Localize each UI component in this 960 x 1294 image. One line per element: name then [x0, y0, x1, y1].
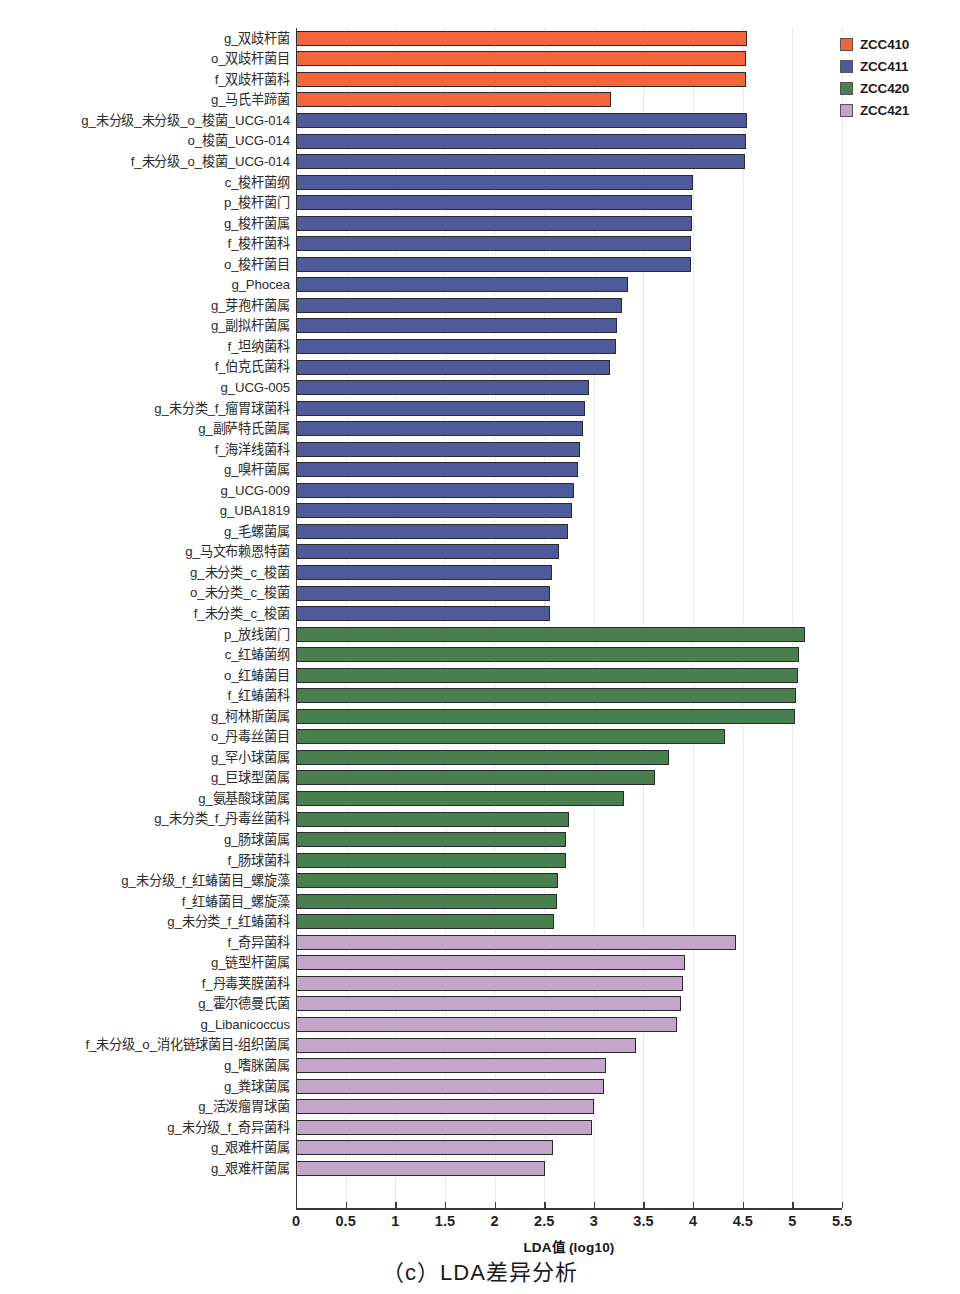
bar-label: o_梭菌_UCG-014: [0, 134, 296, 147]
bar-label: f_坦纳菌科: [0, 340, 296, 353]
bar-cell: [296, 1055, 860, 1076]
bar-label: g_芽孢杆菌属: [0, 299, 296, 312]
legend-item[interactable]: ZCC421: [840, 100, 944, 120]
bar-row: g_柯林斯菌属: [0, 706, 860, 727]
bar-label: o_双歧杆菌目: [0, 52, 296, 65]
bar-label: p_放线菌门: [0, 628, 296, 641]
x-tick: [346, 1202, 347, 1208]
bar: [296, 586, 550, 601]
x-tick: [693, 1202, 694, 1208]
bar-row: f_海洋线菌科: [0, 439, 860, 460]
bar-cell: [296, 49, 860, 70]
plot-area: g_双歧杆菌o_双歧杆菌目f_双歧杆菌科g_马氏羊蹄菌g_未分级_未分级_o_梭…: [0, 28, 860, 1208]
bar-cell: [296, 480, 860, 501]
legend-label: ZCC411: [860, 59, 908, 74]
bar-cell: [296, 316, 860, 337]
bar-label: g_毛螺菌属: [0, 525, 296, 538]
bar-cell: [296, 1117, 860, 1138]
bar-row: o_丹毒丝菌目: [0, 727, 860, 748]
legend-label: ZCC421: [860, 103, 909, 118]
legend-item[interactable]: ZCC420: [840, 78, 944, 98]
bar: [296, 770, 655, 785]
bar: [296, 1038, 636, 1053]
bar-label: f_未分类_c_梭菌: [0, 607, 296, 620]
x-tick-label: 1: [391, 1213, 399, 1229]
bar: [296, 976, 683, 991]
bar: [296, 318, 617, 333]
bar-label: f_红蝽菌科: [0, 689, 296, 702]
bar: [296, 401, 585, 416]
legend-swatch-icon: [840, 60, 853, 73]
bar-cell: [296, 295, 860, 316]
bar-row: f_坦纳菌科: [0, 336, 860, 357]
bar-label: g_梭杆菌属: [0, 217, 296, 230]
bar-label: g_艰难杆菌属: [0, 1141, 296, 1154]
bar-row: p_梭杆菌门: [0, 192, 860, 213]
figure-caption: （c）LDA差异分析: [0, 1254, 960, 1286]
x-tick-label: 5.5: [832, 1213, 852, 1229]
x-tick: [395, 1202, 396, 1208]
bar-row: g_巨球型菌属: [0, 768, 860, 789]
bar-cell: [296, 459, 860, 480]
bar-label: g_未分级_未分级_o_梭菌_UCG-014: [0, 114, 296, 127]
bar-row: g_梭杆菌属: [0, 213, 860, 234]
bar-label: f_双歧杆菌科: [0, 73, 296, 86]
x-axis: 00.511.522.533.544.555.5: [296, 1208, 842, 1210]
legend-item[interactable]: ZCC410: [840, 34, 944, 54]
bar: [296, 688, 796, 703]
bar-cell: [296, 706, 860, 727]
bar-label: g_Phocea: [0, 278, 296, 291]
bar-cell: [296, 398, 860, 419]
bar-row: p_放线菌门: [0, 624, 860, 645]
x-tick-label: 2: [490, 1213, 498, 1229]
bar-row: g_未分级_f_奇异菌科: [0, 1117, 860, 1138]
bar-cell: [296, 891, 860, 912]
bar-label: o_梭杆菌目: [0, 258, 296, 271]
bar-label: g_UBA1819: [0, 504, 296, 517]
bar-cell: [296, 686, 860, 707]
bar-cell: [296, 1076, 860, 1097]
bar: [296, 544, 559, 559]
bar-cell: [296, 110, 860, 131]
bar: [296, 627, 805, 642]
bar-row: f_未分级_o_消化链球菌目-组织菌属: [0, 1035, 860, 1056]
bar-row: f_伯克氏菌科: [0, 357, 860, 378]
bar-cell: [296, 562, 860, 583]
bar-row: c_梭杆菌纲: [0, 172, 860, 193]
bar-cell: [296, 542, 860, 563]
bar-label: g_艰难杆菌属: [0, 1162, 296, 1175]
x-tick-label: 0: [292, 1213, 300, 1229]
bar: [296, 1079, 604, 1094]
bar-label: g_巨球型菌属: [0, 771, 296, 784]
bar-row: g_毛螺菌属: [0, 521, 860, 542]
bar: [296, 750, 669, 765]
bar-cell: [296, 727, 860, 748]
bar-cell: [296, 213, 860, 234]
bar-cell: [296, 172, 860, 193]
bar-label: c_红蝽菌纲: [0, 648, 296, 661]
bar-row: o_梭菌_UCG-014: [0, 131, 860, 152]
legend: ZCC410ZCC411ZCC420ZCC421: [840, 34, 944, 122]
bar-cell: [296, 1035, 860, 1056]
bar: [296, 1140, 553, 1155]
bar-cell: [296, 912, 860, 933]
legend-item[interactable]: ZCC411: [840, 56, 944, 76]
bar-row: g_副拟杆菌属: [0, 316, 860, 337]
bar-row: g_芽孢杆菌属: [0, 295, 860, 316]
bar: [296, 339, 616, 354]
bar-cell: [296, 829, 860, 850]
bar-row: g_Phocea: [0, 275, 860, 296]
bar: [296, 647, 799, 662]
x-tick: [495, 1202, 496, 1208]
bar: [296, 503, 572, 518]
bar-label: f_奇异菌科: [0, 936, 296, 949]
bar: [296, 1120, 592, 1135]
x-tick: [842, 1202, 843, 1208]
bar-row: o_未分类_c_梭菌: [0, 583, 860, 604]
bar-cell: [296, 501, 860, 522]
bar: [296, 113, 747, 128]
bar-cell: [296, 377, 860, 398]
bar: [296, 195, 692, 210]
bar-cell: [296, 90, 860, 111]
bar-cell: [296, 973, 860, 994]
